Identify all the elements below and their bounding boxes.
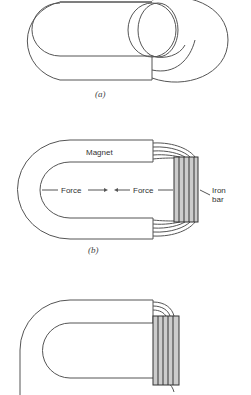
magnet-diagram: (a) Magnet Force Force Iron bar (b) — [0, 0, 251, 395]
iron-bar-b — [174, 157, 198, 222]
caption-b: (b) — [88, 245, 99, 255]
panel-c — [20, 300, 174, 395]
iron-bar-label-2: bar — [212, 195, 224, 204]
magnet-label: Magnet — [86, 148, 113, 157]
iron-bar-label-1: Iron — [212, 186, 226, 195]
iron-bar-c — [153, 316, 179, 385]
caption-a: (a) — [95, 89, 106, 99]
panel-a — [27, 0, 228, 82]
force-label-right: Force — [133, 186, 154, 195]
force-label-left: Force — [61, 186, 82, 195]
